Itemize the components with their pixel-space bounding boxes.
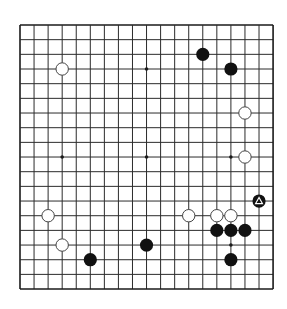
white-stone[interactable] xyxy=(225,210,237,222)
black-stone[interactable] xyxy=(140,238,153,251)
white-stone[interactable] xyxy=(211,210,223,222)
white-stone[interactable] xyxy=(56,239,68,251)
black-stone[interactable] xyxy=(84,253,97,266)
star-point xyxy=(145,67,149,71)
white-stone[interactable] xyxy=(42,210,54,222)
white-stone[interactable] xyxy=(183,210,195,222)
go-board-svg[interactable] xyxy=(0,0,287,309)
black-stone[interactable] xyxy=(252,194,265,207)
black-stone[interactable] xyxy=(238,224,251,237)
black-stone[interactable] xyxy=(224,62,237,75)
star-point xyxy=(229,243,233,247)
star-point xyxy=(145,155,149,159)
white-stone[interactable] xyxy=(56,63,68,75)
black-stone[interactable] xyxy=(210,224,223,237)
white-stone[interactable] xyxy=(239,107,251,119)
go-board[interactable] xyxy=(0,0,287,309)
black-stone[interactable] xyxy=(196,48,209,61)
black-stone[interactable] xyxy=(224,224,237,237)
star-point xyxy=(229,155,233,159)
white-stone[interactable] xyxy=(239,151,251,163)
black-stone[interactable] xyxy=(224,253,237,266)
star-point xyxy=(60,155,64,159)
